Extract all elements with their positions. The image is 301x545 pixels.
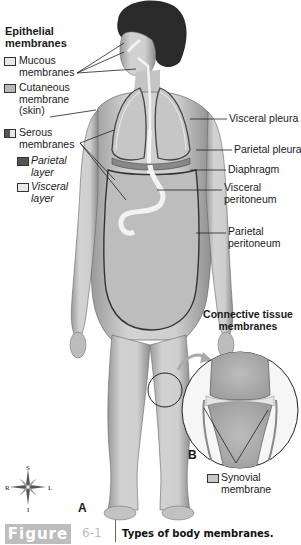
parietal-layer-label: Parietal layer [31, 155, 67, 178]
compass-left: L [48, 483, 52, 495]
serous-swatch [4, 129, 16, 138]
cutaneous-label: Cutaneous membrane (skin) [19, 82, 70, 117]
caption-divider [115, 520, 116, 542]
compass-inferior: I [27, 505, 29, 517]
mucous-label: Mucous membranes [19, 55, 74, 78]
diaphragm-label: Diaphragm [228, 164, 279, 176]
visceral-peritoneum-label: Visceral peritoneum [224, 182, 277, 205]
panel-b-label: B [188, 450, 197, 462]
figure-number: 6-1 [82, 526, 102, 540]
figure-label: Figure [5, 524, 71, 544]
peritoneal-cavity [104, 170, 199, 330]
cutaneous-swatch [4, 84, 16, 93]
panel-a-label: A [78, 503, 87, 515]
visceral-pleura-label: Visceral pleura [229, 113, 298, 125]
serous-label: Serous membranes [19, 127, 74, 150]
legend-heading: Epithelial membranes [5, 25, 67, 49]
mucous-swatch [4, 57, 16, 66]
connective-heading: Connective tissue membranes [198, 309, 298, 332]
synovial-swatch [207, 474, 219, 483]
compass-superior: S [26, 463, 30, 475]
parietal-layer-swatch [17, 157, 29, 166]
visceral-layer-label: Visceral layer [31, 181, 68, 204]
parietal-peritoneum-label: Parietal peritoneum [228, 226, 281, 249]
compass-right: R [5, 483, 10, 495]
parietal-pleura-label: Parietal pleura [234, 144, 301, 156]
figure-caption: Types of body membranes. [122, 528, 274, 539]
visceral-layer-swatch [17, 183, 29, 192]
synovial-label: Synovial membrane [221, 472, 271, 495]
